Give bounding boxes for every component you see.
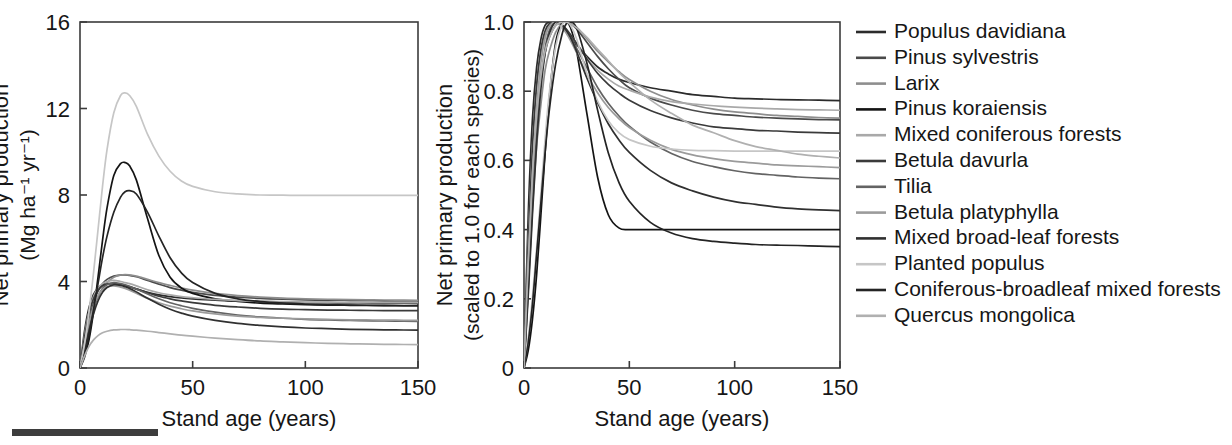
right-curve	[524, 22, 840, 368]
left-curve	[80, 191, 418, 368]
left-y-tick-label: 8	[58, 183, 70, 208]
right-curve	[524, 22, 840, 368]
left-y-axis-title-line1: Net primary production	[0, 84, 13, 307]
left-x-tick-label: 150	[400, 375, 437, 400]
left-curve	[80, 162, 418, 368]
left-x-tick-label: 0	[74, 375, 86, 400]
legend-item-label[interactable]: Populus davidiana	[894, 19, 1066, 42]
left-y-tick-label: 12	[46, 97, 70, 122]
left-curve	[80, 329, 418, 368]
legend-item-label[interactable]: Planted populus	[894, 251, 1045, 274]
right-y-tick-label: 0.8	[483, 79, 514, 104]
left-y-tick-label: 16	[46, 10, 70, 35]
right-y-tick-label: 0.4	[483, 218, 514, 243]
right-curve	[524, 21, 840, 368]
figure-container: 0481216050100150Stand age (years)Net pri…	[0, 0, 1232, 445]
legend-item-label[interactable]: Larix	[894, 71, 940, 94]
left-panel: 0481216050100150Stand age (years)Net pri…	[0, 10, 436, 431]
figure-svg: 0481216050100150Stand age (years)Net pri…	[0, 0, 1232, 445]
left-curves	[80, 93, 418, 368]
right-y-axis-title-line1: Net primary production	[432, 84, 457, 307]
right-x-tick-label: 150	[822, 375, 859, 400]
left-curve	[80, 93, 418, 368]
right-y-tick-label: 0.6	[483, 148, 514, 173]
right-plot-frame	[524, 22, 840, 368]
right-curve	[524, 22, 840, 368]
right-curves	[524, 21, 840, 368]
right-y-tick-label: 0	[502, 356, 514, 381]
left-x-tick-label: 100	[287, 375, 324, 400]
legend-item-label[interactable]: Quercus mongolica	[894, 303, 1075, 326]
left-y-tick-label: 4	[58, 270, 70, 295]
legend-item-label[interactable]: Mixed coniferous forests	[894, 122, 1122, 145]
legend-item-label[interactable]: Pinus koraiensis	[894, 96, 1047, 119]
legend-item-label[interactable]: Coniferous-broadleaf mixed forests	[894, 277, 1221, 300]
legend-item-label[interactable]: Tilia	[894, 174, 932, 197]
right-x-axis-title: Stand age (years)	[595, 406, 770, 431]
right-x-tick-label: 50	[617, 375, 641, 400]
footer-scale-bar	[12, 429, 158, 436]
right-curve	[524, 22, 840, 368]
right-y-axis-title-line2: (scaled to 1.0 for each species)	[460, 49, 483, 341]
right-curve	[524, 22, 840, 368]
left-y-axis-title-line2: (Mg ha⁻¹ yr⁻¹)	[16, 129, 39, 261]
legend-item-label[interactable]: Pinus sylvestris	[894, 45, 1039, 68]
right-curve	[524, 22, 840, 368]
right-x-tick-label: 0	[518, 375, 530, 400]
legend-item-label[interactable]: Betula platyphylla	[894, 200, 1059, 223]
right-curve	[524, 22, 840, 368]
right-curve	[524, 22, 840, 368]
left-x-tick-label: 50	[180, 375, 204, 400]
left-y-tick-label: 0	[58, 356, 70, 381]
species-legend: Populus davidianaPinus sylvestrisLarixPi…	[856, 19, 1221, 326]
left-x-axis-title: Stand age (years)	[162, 406, 337, 431]
legend-item-label[interactable]: Betula davurla	[894, 148, 1029, 171]
right-x-tick-label: 100	[716, 375, 753, 400]
right-curve	[524, 22, 840, 368]
right-curve	[524, 22, 840, 368]
right-y-tick-label: 0.2	[483, 287, 514, 312]
right-panel: 00.20.40.60.81.0050100150Stand age (year…	[432, 10, 858, 431]
right-y-tick-label: 1.0	[483, 10, 514, 35]
right-curve	[524, 22, 840, 368]
legend-item-label[interactable]: Mixed broad-leaf forests	[894, 225, 1119, 248]
